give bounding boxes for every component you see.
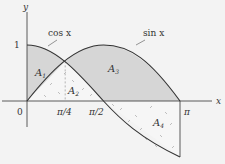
region-a4	[104, 101, 181, 157]
tick-pi: π	[183, 107, 191, 117]
y-axis-label: y	[22, 2, 29, 12]
area-diagram: y x 1 0 π/4 π/2 π cos x sin x A1 A2 A3 A…	[0, 0, 225, 164]
cos-label: cos x	[48, 28, 71, 38]
tick-pi-2: π/2	[88, 107, 104, 117]
x-axis-label: x	[216, 96, 221, 106]
cos-leader	[48, 40, 57, 46]
tick-origin: 0	[17, 107, 23, 117]
tick-pi-4: π/4	[56, 107, 72, 117]
tick-one: 1	[14, 40, 20, 50]
sin-leader	[136, 40, 145, 45]
sin-label: sin x	[143, 28, 164, 38]
